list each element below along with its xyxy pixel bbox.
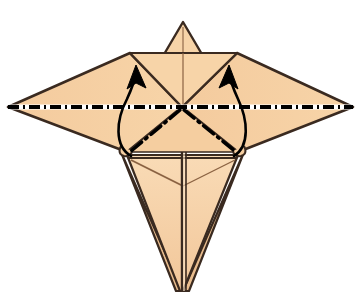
origami-diagram-figure <box>0 0 362 293</box>
origami-illustration <box>0 0 362 293</box>
